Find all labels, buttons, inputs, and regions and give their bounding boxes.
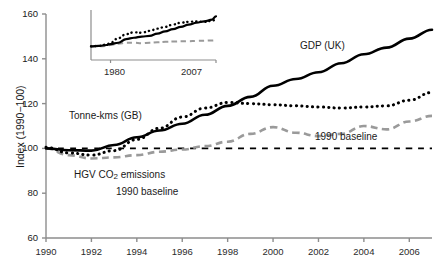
x-tick-1996: 1996 <box>167 246 197 257</box>
y-tick-160: 160 <box>12 8 38 19</box>
x-tick-2000: 2000 <box>258 246 288 257</box>
x-tick-2006: 2006 <box>394 246 424 257</box>
series-label-gdp: GDP (UK) <box>300 40 345 51</box>
x-tick-2002: 2002 <box>303 246 333 257</box>
series-label-hgv: HGV CO2 emissions <box>74 169 165 181</box>
hgv-label-text-b: emissions <box>118 169 165 180</box>
x-tick-2004: 2004 <box>349 246 379 257</box>
y-tick-100: 100 <box>12 142 38 153</box>
baseline-label: 1990 baseline <box>315 131 377 142</box>
x-tick-1998: 1998 <box>213 246 243 257</box>
inset-xtick-1980: 1980 <box>104 66 125 77</box>
figure-root: Index (1990−100) GDP (UK) Tonne-kms (GB)… <box>0 0 438 269</box>
y-tick-80: 80 <box>12 187 38 198</box>
x-tick-1992: 1992 <box>76 246 106 257</box>
y-tick-120: 120 <box>12 98 38 109</box>
y-tick-140: 140 <box>12 53 38 64</box>
hgv-label-text-a: HGV CO <box>74 169 113 180</box>
x-tick-1994: 1994 <box>122 246 152 257</box>
inset-xtick-2007: 2007 <box>181 66 202 77</box>
series-label-hgv-country: 1990 baseline <box>116 186 178 197</box>
inset-chart <box>91 10 216 63</box>
x-tick-1990: 1990 <box>31 246 61 257</box>
y-tick-60: 60 <box>12 232 38 243</box>
series-label-tonne-kms: Tonne-kms (GB) <box>69 110 142 121</box>
